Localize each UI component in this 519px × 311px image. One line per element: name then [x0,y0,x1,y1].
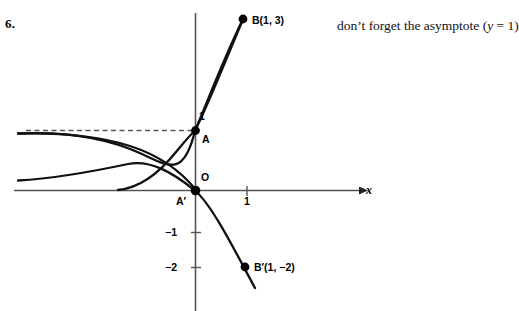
point-a-prime-label: A′ [176,196,186,207]
origin-label: O [201,172,209,183]
y-tick-label-1: 1 [199,111,205,122]
point-a-marker [191,126,200,135]
point-b-marker [239,15,248,24]
point-b-label: B(1, 3) [252,15,284,26]
point-origin-marker [191,186,201,196]
y-tick-label-minus-2: −2 [165,262,177,273]
point-a-label: A [202,134,210,145]
curve-original-rising-branch [118,20,243,191]
point-b-prime-label: B′(1, −2) [254,262,295,273]
y-tick-label-minus-1: −1 [165,227,177,238]
x-axis-label: x [366,183,372,198]
curve-reflected [18,163,255,288]
x-tick-label-1: 1 [244,196,250,207]
point-b-prime-marker [241,263,250,272]
